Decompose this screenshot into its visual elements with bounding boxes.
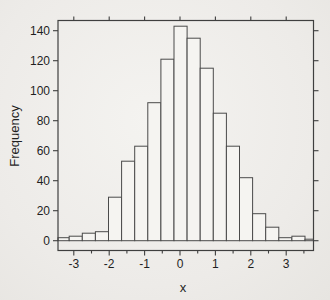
y-tick-label: 80 bbox=[37, 114, 51, 128]
histogram-bar bbox=[266, 227, 279, 241]
histogram-bar bbox=[200, 68, 213, 241]
x-axis-title: x bbox=[180, 281, 187, 294]
histogram-bar bbox=[148, 103, 161, 241]
y-tick-label: 100 bbox=[30, 84, 50, 98]
x-tick-label: -1 bbox=[139, 257, 150, 271]
histogram-bar bbox=[58, 238, 69, 241]
histogram-bar bbox=[240, 178, 253, 241]
histogram-bar bbox=[279, 238, 292, 241]
histogram-bar bbox=[253, 214, 266, 241]
x-tick-label: 1 bbox=[212, 257, 219, 271]
histogram-bar bbox=[69, 236, 82, 241]
histogram-bar bbox=[135, 146, 148, 241]
histogram-bar bbox=[109, 197, 122, 241]
histogram-bar bbox=[122, 161, 135, 241]
y-tick-label: 60 bbox=[37, 144, 51, 158]
y-tick-label: 20 bbox=[37, 204, 51, 218]
x-tick-label: -3 bbox=[68, 257, 79, 271]
histogram-bar bbox=[174, 26, 187, 241]
y-tick-label: 0 bbox=[43, 234, 50, 248]
y-tick-label: 40 bbox=[37, 174, 51, 188]
x-tick-label: 2 bbox=[247, 257, 254, 271]
histogram-bar bbox=[95, 232, 108, 241]
histogram-bar bbox=[226, 146, 239, 241]
histogram-chart: -3-2-10123020406080100120140 bbox=[0, 0, 330, 300]
histogram-bar bbox=[187, 38, 200, 241]
y-axis-title: Frequency bbox=[8, 105, 21, 166]
y-tick-label: 140 bbox=[30, 24, 50, 38]
x-tick-label: 3 bbox=[283, 257, 290, 271]
histogram-bar bbox=[82, 233, 95, 241]
histogram-figure: -3-2-10123020406080100120140 Frequency x bbox=[0, 0, 330, 300]
histogram-bar bbox=[292, 236, 305, 241]
histogram-bar bbox=[161, 59, 174, 241]
y-tick-label: 120 bbox=[30, 54, 50, 68]
x-tick-label: -2 bbox=[104, 257, 115, 271]
histogram-bar bbox=[213, 113, 226, 241]
histogram-bar bbox=[305, 239, 314, 241]
x-tick-label: 0 bbox=[177, 257, 184, 271]
